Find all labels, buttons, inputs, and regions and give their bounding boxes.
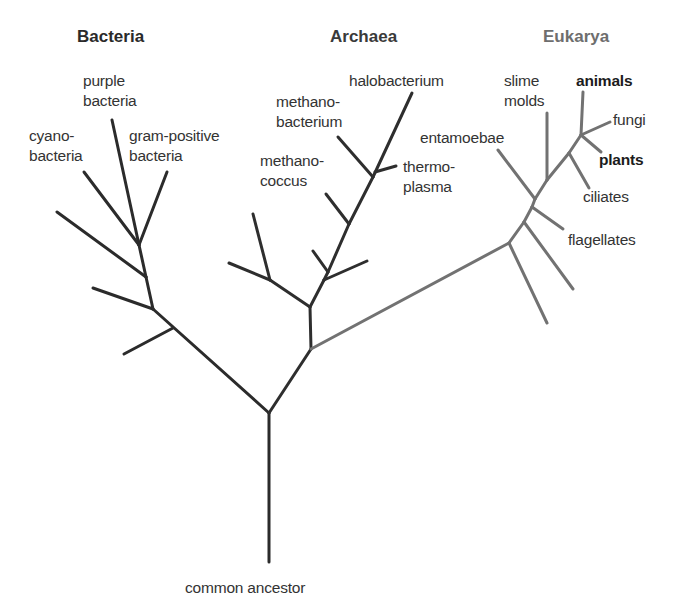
label-line: bacteria	[129, 146, 219, 166]
label-line: ciliates	[583, 187, 629, 207]
label-cyanobacteria: cyano- bacteria	[29, 126, 83, 166]
domain-header-eukarya: Eukarya	[543, 27, 609, 47]
archaea-small-branch	[313, 251, 328, 272]
label-line: cyano-	[29, 126, 83, 146]
label-line: animals	[576, 71, 632, 91]
archaea-stem	[310, 307, 311, 349]
archaea-stem-2	[310, 280, 324, 307]
label-thermoplasma: thermo- plasma	[403, 157, 455, 197]
archaea-eukarya-stem	[269, 349, 311, 413]
archaea-left-branch	[270, 280, 310, 307]
label-plants: plants	[599, 150, 643, 170]
label-fungi: fungi	[613, 110, 646, 130]
label-line: plants	[599, 150, 643, 170]
domain-header-bacteria: Bacteria	[77, 27, 144, 47]
methanobacterium-branch	[338, 137, 373, 177]
gram-positive-branch	[139, 172, 167, 245]
label-line: bacterium	[276, 112, 342, 132]
archaea-left-branch-outer	[229, 263, 270, 280]
animals-branch	[581, 92, 583, 135]
eukarya-stem-4	[535, 180, 547, 199]
eukarya-lower-branch-1	[509, 243, 547, 323]
label-purple-bacteria: purple bacteria	[83, 71, 137, 111]
label-line: gram-positive	[129, 126, 219, 146]
label-line: coccus	[260, 171, 324, 191]
eukarya-stem-2	[524, 207, 532, 222]
label-methanobacterium: methano- bacterium	[276, 92, 342, 132]
label-slime-molds: slime molds	[504, 71, 544, 111]
eukarya-stem-6	[569, 135, 581, 153]
label-methanococcus: methano- coccus	[260, 151, 324, 191]
archaea-stem-4	[328, 224, 349, 272]
eukarya-stem-1	[509, 222, 524, 243]
methanococcus-branch	[326, 194, 349, 224]
label-line: entamoebae	[420, 128, 504, 148]
entamoebae-branch	[498, 150, 535, 199]
label-line: fungi	[613, 110, 646, 130]
label-line: methano-	[276, 92, 342, 112]
archaea-stem-5	[349, 177, 373, 224]
domain-header-archaea: Archaea	[330, 27, 397, 47]
eukarya-stem-5	[547, 153, 569, 180]
bacteria-side-branch-lower	[124, 328, 173, 354]
label-line: flagellates	[568, 230, 636, 250]
bacteria-stem-upper	[146, 277, 153, 309]
bacteria-stem	[153, 309, 269, 413]
label-line: plasma	[403, 177, 455, 197]
bacteria-branches	[57, 120, 269, 562]
flagellates-branch	[532, 207, 563, 229]
ciliates-branch	[569, 153, 589, 188]
label-line: purple	[83, 71, 137, 91]
eukarya-long-branch	[311, 243, 509, 349]
label-entamoebae: entamoebae	[420, 128, 504, 148]
label-line: methano-	[260, 151, 324, 171]
label-flagellates: flagellates	[568, 230, 636, 250]
eukarya-lower-branch-2	[524, 222, 573, 289]
label-line: bacteria	[83, 91, 137, 111]
label-animals: animals	[576, 71, 632, 91]
archaea-left-sub-branch	[253, 214, 270, 280]
bacteria-side-branch-mid	[93, 288, 153, 309]
plants-branch	[581, 135, 601, 152]
label-line: bacteria	[29, 146, 83, 166]
archaea-branches	[229, 93, 412, 413]
label-line: molds	[504, 91, 544, 111]
label-gram-positive-bacteria: gram-positive bacteria	[129, 126, 219, 166]
label-halobacterium: halobacterium	[349, 71, 444, 91]
label-common-ancestor: common ancestor	[185, 578, 305, 598]
fungi-branch	[581, 122, 610, 135]
label-line: slime	[504, 71, 544, 91]
label-line: thermo-	[403, 157, 455, 177]
label-ciliates: ciliates	[583, 187, 629, 207]
label-line: halobacterium	[349, 71, 444, 91]
